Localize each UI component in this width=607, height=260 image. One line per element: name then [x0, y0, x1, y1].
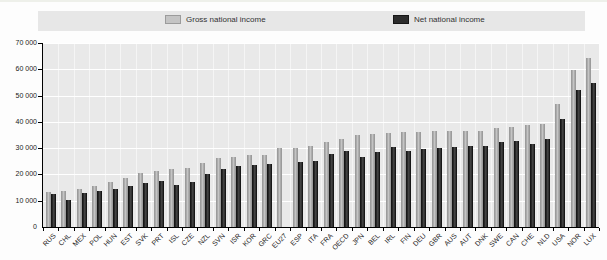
x-axis-line	[42, 227, 599, 228]
x-tick-mark	[306, 228, 307, 231]
bar-gross-EU27	[277, 148, 282, 227]
bar-net-GBR	[437, 148, 442, 227]
bar-net-OECD	[344, 151, 349, 227]
bar-net-CAN	[514, 141, 519, 227]
vertical-gridline	[58, 43, 59, 227]
bar-net-KOR	[252, 165, 257, 227]
bar-chart-plot-area	[43, 43, 599, 227]
vertical-gridline	[306, 43, 307, 227]
x-tick-mark	[553, 228, 554, 231]
x-tick-mark	[367, 228, 368, 231]
x-tick-mark	[383, 228, 384, 231]
y-axis-line	[42, 43, 43, 227]
x-tick-mark	[244, 228, 245, 231]
bar-net-MEX	[82, 193, 87, 227]
bar-net-SVK	[143, 183, 148, 227]
x-tick-mark	[429, 228, 430, 231]
bar-net-HUN	[113, 189, 118, 227]
x-tick-mark	[522, 228, 523, 231]
vertical-gridline	[445, 43, 446, 227]
horizontal-gridline	[43, 43, 599, 44]
x-tick-mark	[599, 228, 600, 231]
chart-card: Gross national income Net national incom…	[0, 0, 607, 260]
horizontal-gridline	[43, 96, 599, 97]
x-tick-mark	[568, 228, 569, 231]
bar-net-LUX	[591, 83, 596, 227]
bar-net-FIN	[406, 151, 411, 227]
x-tick-mark	[491, 228, 492, 231]
bar-net-EST	[128, 186, 133, 227]
bar-net-SVN	[221, 169, 226, 227]
bar-net-CHE	[530, 144, 535, 227]
vertical-gridline	[275, 43, 276, 227]
vertical-gridline	[244, 43, 245, 227]
x-tick-mark	[58, 228, 59, 231]
bar-net-SWE	[499, 142, 504, 227]
vertical-gridline	[414, 43, 415, 227]
vertical-gridline	[553, 43, 554, 227]
bar-net-NLD	[545, 139, 550, 227]
vertical-gridline	[475, 43, 476, 227]
vertical-gridline	[336, 43, 337, 227]
x-tick-mark	[105, 228, 106, 231]
vertical-gridline	[367, 43, 368, 227]
x-tick-mark	[506, 228, 507, 231]
x-tick-mark	[537, 228, 538, 231]
gross-series-swatch-icon	[165, 15, 181, 24]
vertical-gridline	[167, 43, 168, 227]
vertical-gridline	[290, 43, 291, 227]
bar-net-RUS	[51, 194, 56, 227]
vertical-gridline	[506, 43, 507, 227]
vertical-gridline	[383, 43, 384, 227]
bar-net-USA	[560, 119, 565, 227]
x-tick-mark	[275, 228, 276, 231]
y-tick-label: 20 000	[0, 170, 37, 177]
vertical-gridline	[259, 43, 260, 227]
bar-net-PRT	[159, 181, 164, 227]
y-tick-label: 0	[0, 223, 37, 230]
legend-item-net: Net national income	[393, 15, 485, 24]
bar-net-ISR	[236, 166, 241, 228]
x-tick-mark	[475, 228, 476, 231]
x-tick-mark	[43, 228, 44, 231]
bar-net-NZL	[205, 174, 210, 227]
vertical-gridline	[522, 43, 523, 227]
vertical-gridline	[537, 43, 538, 227]
x-tick-mark	[398, 228, 399, 231]
horizontal-gridline	[43, 122, 599, 123]
vertical-gridline	[151, 43, 152, 227]
bar-net-NOR	[576, 90, 581, 227]
y-tick-label: 10 000	[0, 197, 37, 204]
x-tick-mark	[228, 228, 229, 231]
vertical-gridline	[105, 43, 106, 227]
net-legend-label: Net national income	[414, 15, 485, 24]
x-tick-mark	[120, 228, 121, 231]
bar-net-ITA	[313, 161, 318, 227]
bar-net-AUS	[452, 147, 457, 227]
bar-net-POL	[97, 191, 102, 227]
vertical-gridline	[74, 43, 75, 227]
bar-net-DEU	[421, 149, 426, 227]
x-tick-mark	[584, 228, 585, 231]
y-tick-label: 50 000	[0, 92, 37, 99]
net-series-swatch-icon	[393, 15, 409, 24]
vertical-gridline	[228, 43, 229, 227]
y-tick-label: 40 000	[0, 118, 37, 125]
horizontal-gridline	[43, 69, 599, 70]
x-tick-mark	[74, 228, 75, 231]
x-tick-mark	[445, 228, 446, 231]
vertical-gridline	[213, 43, 214, 227]
bar-net-JPN	[360, 157, 365, 227]
y-tick-label: 70 000	[0, 39, 37, 46]
x-tick-mark	[197, 228, 198, 231]
vertical-gridline	[460, 43, 461, 227]
vertical-gridline	[89, 43, 90, 227]
bar-net-ESP	[298, 162, 303, 227]
bar-net-DNK	[483, 146, 488, 227]
x-tick-mark	[460, 228, 461, 231]
vertical-gridline	[568, 43, 569, 227]
bar-net-GRC	[267, 164, 272, 227]
x-tick-mark	[259, 228, 260, 231]
x-tick-mark	[321, 228, 322, 231]
bar-net-ISL	[174, 185, 179, 227]
